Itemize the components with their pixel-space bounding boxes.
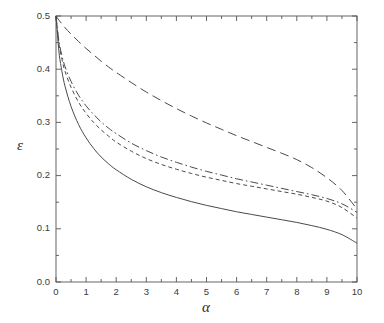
- y-axis-label: ε: [17, 137, 23, 153]
- curve-solid: [56, 16, 357, 243]
- axes-frame: [56, 16, 357, 282]
- y-axis-ticks: [56, 16, 357, 282]
- x-tick-label: 7: [264, 286, 269, 297]
- x-tick-label: 5: [204, 286, 209, 297]
- curve-short-dash: [56, 16, 357, 218]
- y-tick-label: 0.4: [37, 63, 50, 74]
- x-tick-label: 0: [53, 286, 58, 297]
- y-tick-label: 0.5: [37, 10, 50, 21]
- y-tick-label: 0.3: [37, 116, 50, 127]
- plot-frame: [56, 16, 357, 282]
- chart-canvas: 012345678910 0.00.10.20.30.40.5 α ε: [0, 0, 384, 323]
- x-tick-label: 1: [83, 286, 88, 297]
- curve-long-dash: [56, 16, 357, 209]
- figure-container: 012345678910 0.00.10.20.30.40.5 α ε: [0, 0, 384, 323]
- y-axis-tick-labels: 0.00.10.20.30.40.5: [37, 10, 50, 287]
- x-axis-label: α: [202, 299, 211, 315]
- x-tick-label: 4: [174, 286, 179, 297]
- curve-dash-dot: [56, 16, 357, 212]
- x-tick-label: 10: [352, 286, 363, 297]
- x-tick-label: 8: [294, 286, 299, 297]
- y-tick-label: 0.0: [37, 276, 50, 287]
- x-tick-label: 6: [234, 286, 239, 297]
- y-tick-label: 0.2: [37, 169, 50, 180]
- y-tick-label: 0.1: [37, 222, 50, 233]
- data-curves: [56, 16, 357, 243]
- x-tick-label: 9: [324, 286, 329, 297]
- x-tick-label: 3: [144, 286, 149, 297]
- x-axis-tick-labels: 012345678910: [53, 286, 362, 297]
- x-axis-ticks: [56, 16, 357, 282]
- x-tick-label: 2: [114, 286, 119, 297]
